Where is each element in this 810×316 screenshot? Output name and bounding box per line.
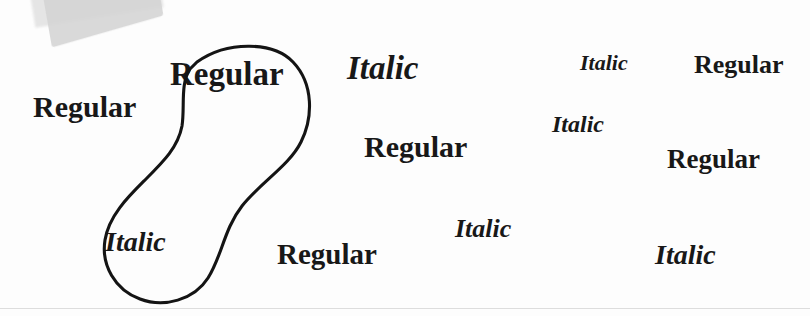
specimen-word-italic: Italic [105, 228, 166, 256]
specimen-word-italic: Italic [347, 52, 419, 85]
specimen-word-regular: Regular [364, 132, 467, 162]
specimen-word-italic: Italic [455, 216, 511, 242]
specimen-word-italic: Italic [655, 241, 716, 269]
specimen-word-regular: Regular [277, 240, 377, 269]
specimen-word-italic: Italic [552, 112, 604, 136]
scanned-page: RegularRegularItalicItalicRegularItalicR… [0, 0, 810, 316]
specimen-word-regular: Regular [667, 146, 760, 173]
specimen-word-regular: Regular [33, 92, 136, 122]
specimen-word-regular: Regular [170, 58, 284, 91]
specimen-word-italic: Italic [580, 52, 628, 74]
specimen-word-regular: Regular [694, 52, 784, 78]
page-bottom-rule [0, 308, 810, 309]
scan-shadow-artifact [40, 0, 163, 48]
